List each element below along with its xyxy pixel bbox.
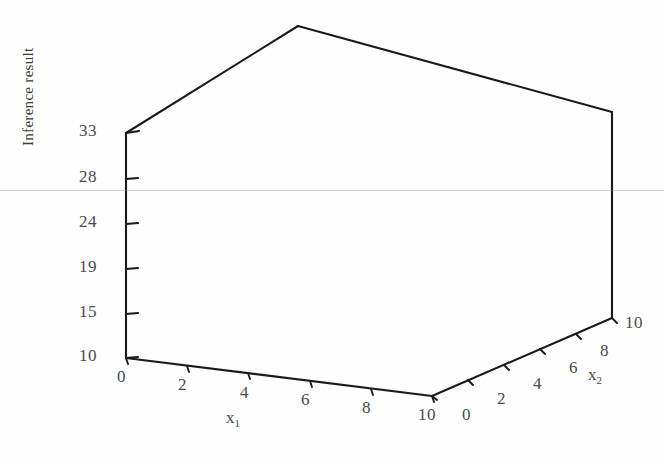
z-tick-19: [126, 268, 138, 269]
x2-tick-label-4: 4: [533, 374, 542, 394]
x1-axis-line: [126, 358, 432, 396]
z-tick-label-28: 28: [79, 167, 97, 187]
frame-back-right: [298, 26, 612, 112]
z-tick-label-33: 33: [79, 121, 97, 141]
z-tick-28: [126, 178, 138, 179]
z-tick-label-19: 19: [79, 257, 97, 277]
x1-axis-title-text: x: [226, 408, 235, 427]
x1-tick-label-8: 8: [362, 398, 371, 418]
x1-tick-label-10: 10: [418, 405, 436, 425]
z-tick-label-15: 15: [79, 302, 97, 322]
x2-tick-label-0: 0: [462, 405, 471, 425]
z-tick-24: [126, 223, 138, 224]
scan-artifact-line: [0, 190, 664, 191]
x1-axis-title-subscript: 1: [235, 417, 241, 429]
surface-plot-canvas: [0, 0, 664, 466]
z-tick-label-10: 10: [79, 346, 97, 366]
x1-tick-label-6: 6: [301, 390, 310, 410]
x2-ticks: [432, 318, 617, 400]
x1-tick-label-2: 2: [178, 375, 187, 395]
surface-plot-figure: Inference result 33 28 24 19 15 10 0 2 4…: [0, 0, 664, 466]
x2-tick-label-2: 2: [497, 389, 506, 409]
axis-frame: [126, 26, 617, 402]
x1-axis-title: x1: [226, 408, 240, 429]
x2-axis-title-text: x: [588, 365, 597, 384]
x2-tick-label-8: 8: [600, 341, 609, 361]
z-tick-label-24: 24: [79, 212, 97, 232]
frame-top-left: [126, 26, 298, 133]
x2-axis-line: [432, 318, 612, 396]
x1-tick-label-4: 4: [240, 383, 249, 403]
z-tick-15: [126, 313, 138, 314]
x1-tick-label-0: 0: [117, 367, 126, 387]
x2-axis-title: x2: [588, 365, 602, 386]
x2-axis-title-subscript: 2: [597, 374, 603, 386]
x2-tick-label-10: 10: [625, 313, 643, 333]
x2-tick-label-6: 6: [569, 358, 578, 378]
z-axis-title-text: Inference result: [20, 48, 37, 147]
